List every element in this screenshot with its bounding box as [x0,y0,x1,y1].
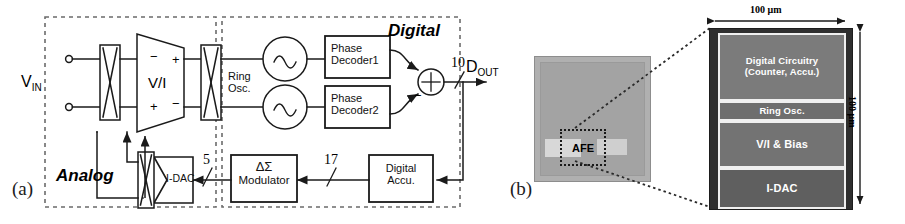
input-signal-subscript: IN [32,82,42,93]
idac-block-label: I-DAC [166,173,195,185]
die-height-dimension-label: 100 μm [847,96,858,128]
phase-decoder1-line1: Phase [331,42,391,54]
amp-output-plus-sign: + [172,52,180,67]
phase-decoder1-line2: Decoder1 [331,54,391,66]
panel-b-die-photo: (b) AFE Digital Circuitry (Counter, Accu… [500,0,905,224]
ring-osc-label-line2: Osc. [228,82,262,94]
amp-output-minus-sign: − [172,96,180,111]
phase-decoder2-line1: Phase [331,92,391,104]
phase-decoder1-label: Phase Decoder1 [331,42,391,66]
panel-a-block-diagram: (a) VIN DOUT Analog Digital V/I − + + − … [0,0,500,224]
input-terminal-positive [66,56,73,63]
phase-decoder2-label: Phase Decoder2 [331,92,391,116]
modulator-label-line2: Modulator [233,174,295,187]
accumulator-block-label: Digital Accu. [371,162,431,186]
amp-input-plus-sign: + [150,99,158,114]
dimension-arrows [500,0,905,224]
phase-decoder2-line2: Decoder2 [331,104,391,116]
amp-input-minus-sign: − [150,49,158,64]
input-terminal-negative [66,104,73,111]
panel-a-caption: (a) [12,178,33,200]
bus-width-summer-output: 10 [451,55,465,71]
accumulator-label-line2: Accu. [371,174,431,186]
bus-width-accumulator-output: 17 [324,152,338,168]
ring-osc-label-line1: Ring [228,70,262,82]
ring-oscillator-label: Ring Osc. [228,70,262,94]
modulator-block-label: ΔΣ Modulator [233,160,295,187]
output-signal-label: DOUT [466,58,499,78]
digital-domain-label: Digital [388,21,440,41]
input-signal-name: V [21,73,32,90]
output-signal-subscript: OUT [478,67,499,78]
bus-width-modulator-output: 5 [203,152,210,168]
vi-amplifier-label: V/I [148,74,166,91]
figure-root: (a) VIN DOUT Analog Digital V/I − + + − … [0,0,905,224]
output-signal-name: D [466,58,478,75]
accumulator-label-line1: Digital [371,162,431,174]
die-width-dimension-label: 100 μm [750,4,782,15]
analog-domain-label: Analog [56,166,114,186]
summer-minus-sign: − [414,88,422,103]
modulator-label-line1: ΔΣ [233,160,295,174]
input-signal-label: VIN [21,73,42,93]
